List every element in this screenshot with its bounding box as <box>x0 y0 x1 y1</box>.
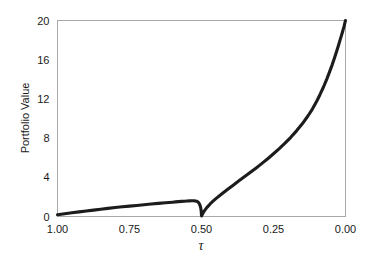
x-tick-label: 0.00 <box>335 223 356 235</box>
y-tick-label: 8 <box>43 132 49 144</box>
chart-container: 048121620 1.000.750.500.250.00 Portfolio… <box>0 0 374 260</box>
y-tick-label: 4 <box>43 171 49 183</box>
y-tick-label: 20 <box>37 15 49 27</box>
y-tick-label: 12 <box>37 93 49 105</box>
y-tick-label: 0 <box>43 211 49 223</box>
y-axis-title: Portfolio Value <box>19 83 31 154</box>
x-tick-label: 0.50 <box>191 223 212 235</box>
portfolio-value-chart: 048121620 1.000.750.500.250.00 Portfolio… <box>0 0 374 260</box>
x-tick-label: 0.75 <box>119 223 140 235</box>
x-tick-label: 1.00 <box>47 223 68 235</box>
y-tick-label: 16 <box>37 54 49 66</box>
chart-background <box>0 0 374 260</box>
x-tick-label: 0.25 <box>263 223 284 235</box>
